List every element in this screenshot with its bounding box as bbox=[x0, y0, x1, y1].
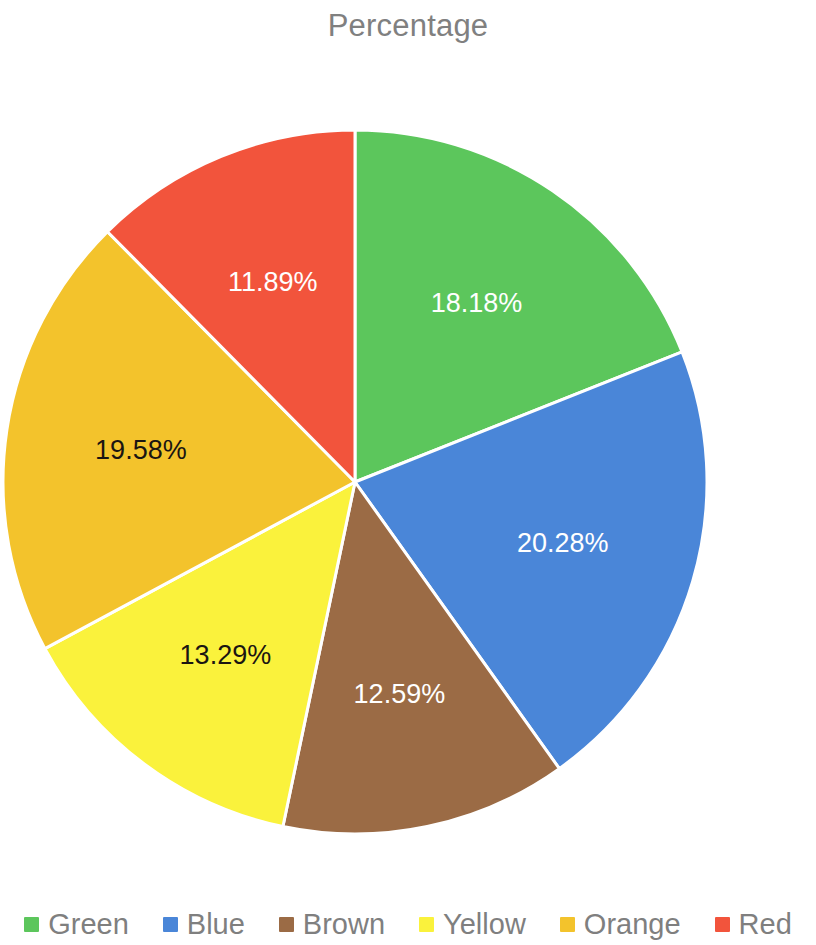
legend-label: Red bbox=[739, 907, 792, 941]
legend-label: Green bbox=[48, 907, 129, 941]
legend-item-red[interactable]: Red bbox=[715, 907, 792, 941]
legend-swatch-icon bbox=[419, 917, 434, 932]
pie-chart: Percentage 18.18%20.28%12.59%13.29%19.58… bbox=[0, 0, 816, 945]
legend-label: Blue bbox=[187, 907, 245, 941]
legend-swatch-icon bbox=[163, 917, 178, 932]
legend-swatch-icon bbox=[560, 917, 575, 932]
legend-item-orange[interactable]: Orange bbox=[560, 907, 681, 941]
legend-item-green[interactable]: Green bbox=[24, 907, 129, 941]
pie-svg bbox=[0, 104, 816, 884]
legend-item-yellow[interactable]: Yellow bbox=[419, 907, 526, 941]
chart-title: Percentage bbox=[0, 6, 816, 46]
legend-label: Brown bbox=[303, 907, 385, 941]
pie-slice-group bbox=[3, 130, 707, 834]
legend-swatch-icon bbox=[279, 917, 294, 932]
legend-label: Yellow bbox=[443, 907, 526, 941]
legend-swatch-icon bbox=[24, 917, 39, 932]
legend: GreenBlueBrownYellowOrangeRed bbox=[0, 903, 816, 945]
legend-item-blue[interactable]: Blue bbox=[163, 907, 245, 941]
legend-label: Orange bbox=[584, 907, 681, 941]
legend-item-brown[interactable]: Brown bbox=[279, 907, 385, 941]
plot-area: 18.18%20.28%12.59%13.29%19.58%11.89% bbox=[0, 104, 816, 884]
legend-swatch-icon bbox=[715, 917, 730, 932]
